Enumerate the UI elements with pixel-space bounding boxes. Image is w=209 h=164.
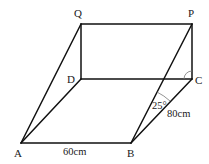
angle-label-b: 25°	[152, 100, 167, 111]
length-label-ab: 60cm	[63, 146, 86, 157]
vertex-label-b: B	[127, 147, 134, 159]
vertex-label-p: P	[188, 7, 194, 19]
vertex-label-q: Q	[74, 7, 82, 19]
prism-diagram: Q P D C A B 60cm 80cm 25°	[0, 0, 209, 164]
length-label-bc: 80cm	[167, 108, 190, 119]
diagram-svg: Q P D C A B 60cm 80cm 25°	[0, 0, 209, 164]
vertex-label-a: A	[14, 147, 22, 159]
edge-da	[21, 79, 81, 143]
vertex-label-d: D	[67, 73, 75, 85]
angle-arc-c	[184, 71, 192, 79]
vertex-label-c: C	[195, 74, 202, 86]
edge-bp	[131, 24, 192, 143]
